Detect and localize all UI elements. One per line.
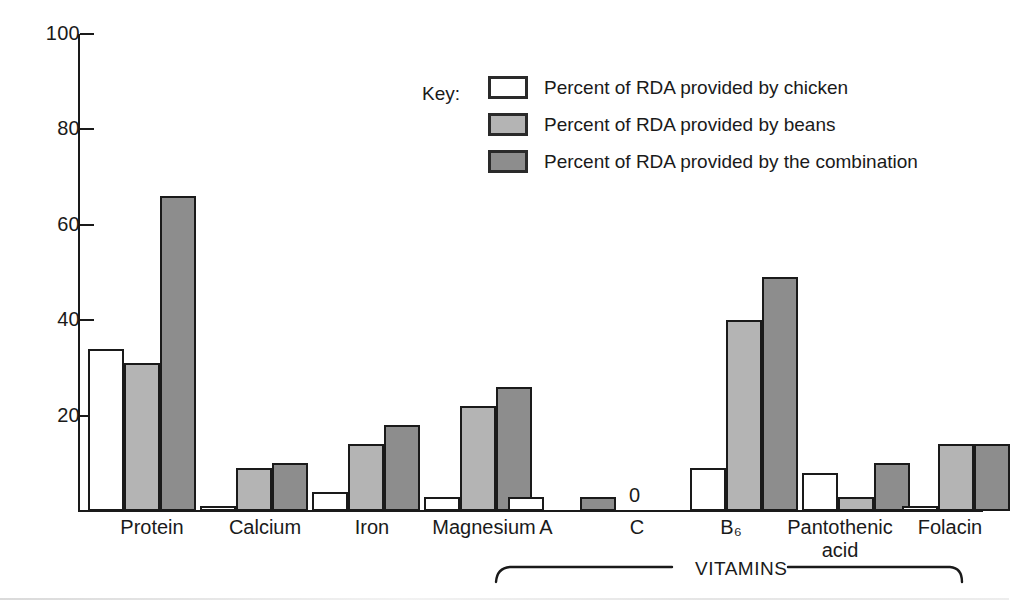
y-axis-tick-label-wrap: 60 [0,214,80,234]
category-label: C [607,516,667,539]
bar-beans [838,497,874,511]
bar-beans [348,444,384,511]
bar-beans [460,406,496,511]
bar-chicken [312,492,348,511]
bar-group [508,34,616,511]
category-label: Folacin [885,516,1014,539]
y-axis-tick-label-wrap: 80 [0,118,80,138]
bar-chicken [508,497,544,511]
vitamins-group-bracket: VITAMINS [492,556,964,586]
bar-group [88,34,196,511]
y-axis-tick-label-wrap: 40 [0,309,80,329]
bar-beans [124,363,160,511]
y-axis-tick-label: 40 [18,309,80,329]
bar-chicken [88,349,124,511]
zero-value-label: 0 [629,485,640,505]
bar-chicken [902,506,938,511]
bar-combo [974,444,1010,511]
y-axis-tick-label-wrap: 100 [0,23,80,43]
category-label: A [516,516,576,539]
bar-group [902,34,1010,511]
page-bottom-edge [0,598,1009,600]
legend-swatch-combo [488,150,528,173]
bar-group [312,34,420,511]
bar-group [690,34,798,511]
bar-combo [160,196,196,511]
bar-combo [762,277,798,511]
y-axis-tick-label: 100 [18,23,80,43]
bar-group [802,34,910,511]
bar-beans [938,444,974,511]
plot-area [80,34,983,511]
legend-label: Percent of RDA provided by chicken [544,76,848,100]
bar-combo [384,425,420,511]
y-axis-tick-label: 20 [18,405,80,425]
vitamins-label: VITAMINS [695,559,787,579]
y-axis-tick-label-wrap: 20 [0,405,80,425]
legend-swatch-beans [488,113,528,136]
y-axis-tick-label: 60 [18,214,80,234]
bar-combo [272,463,308,511]
bar-chicken [200,506,236,511]
bar-group [200,34,308,511]
bar-chicken [424,497,460,511]
bar-beans [726,320,762,511]
bar-chicken [690,468,726,511]
legend-label: Percent of RDA provided by the combinati… [544,150,918,174]
legend-swatch-chicken [488,76,528,99]
legend-title: Key: [422,84,460,104]
bar-chicken [802,473,838,511]
y-axis-tick-label: 80 [18,118,80,138]
legend-label: Percent of RDA provided by beans [544,113,836,137]
bar-beans [236,468,272,511]
category-label: B₆ [696,516,766,539]
